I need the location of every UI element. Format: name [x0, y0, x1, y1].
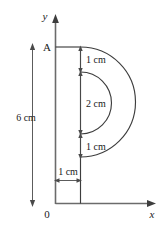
y-axis-arrowhead — [52, 14, 59, 23]
lower-gap-arrow-top — [78, 133, 82, 139]
point-label-A: A — [43, 41, 51, 53]
figure-canvas: y x 0 A 6 cm 1 cm 2 cm 1 cm 1 cm — [0, 0, 163, 230]
dimension-upper-gap — [78, 46, 82, 74]
y-axis-label: y — [42, 10, 48, 22]
overall-height-arrow-top — [30, 43, 35, 50]
dimension-lower-gap — [78, 133, 82, 160]
upper-gap-arrow-top — [78, 46, 82, 52]
dimension-label-lower-gap: 1 cm — [86, 141, 106, 152]
geometry-figure: y x 0 A 6 cm 1 cm 2 cm 1 cm 1 cm — [0, 0, 163, 230]
x-axis-label: x — [149, 208, 155, 220]
offset-arrow-right — [77, 178, 83, 182]
dimension-label-overall-height: 6 cm — [16, 112, 36, 123]
axes-group — [52, 14, 156, 207]
overall-height-arrow-bottom — [30, 200, 35, 207]
origin-label: 0 — [44, 208, 50, 220]
dimension-offset-from-y-axis — [54, 178, 82, 182]
figure-outline-group — [56, 47, 136, 204]
dimension-label-upper-gap: 1 cm — [86, 54, 106, 65]
dimension-label-inner-diameter: 2 cm — [86, 98, 106, 109]
inner-diameter-arrow-top — [78, 71, 82, 77]
dimension-label-offset: 1 cm — [58, 166, 78, 177]
dimension-inner-diameter — [78, 71, 82, 136]
x-axis-arrowhead — [147, 200, 156, 207]
dimension-overall-height — [30, 43, 35, 207]
